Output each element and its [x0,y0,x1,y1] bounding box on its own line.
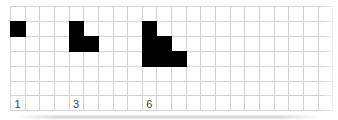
pattern-count-label-1: 1 [15,98,21,110]
pattern-worksheet-figure: 1 3 6 [0,0,338,120]
pattern-3-filled-cell [69,36,85,52]
pattern-1-filled-cell [10,21,26,37]
pattern-6-filled-cell [142,51,158,67]
bottom-shadow-line [16,116,320,118]
pattern-6-filled-cell [157,51,173,67]
pattern-count-label-3: 3 [73,98,79,110]
pattern-6-filled-cell [171,51,187,67]
pattern-3-filled-cell [69,21,85,37]
pattern-grid: 1 3 6 [10,6,333,111]
pattern-count-label-6: 6 [146,98,152,110]
pattern-3-filled-cell [83,36,99,52]
pattern-6-filled-cell [142,36,158,52]
pattern-6-filled-cell [157,36,173,52]
pattern-6-filled-cell [142,21,158,37]
